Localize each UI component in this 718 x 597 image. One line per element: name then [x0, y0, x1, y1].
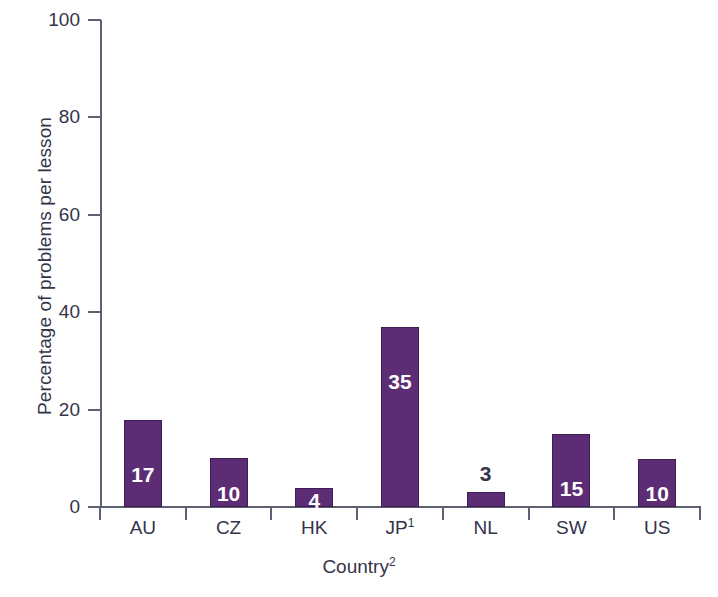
bar[interactable]: 10 [638, 459, 676, 507]
y-tick-label: 40 [20, 301, 80, 323]
x-tick-label: SW [556, 517, 587, 539]
y-axis-line [100, 20, 102, 508]
bar-value-label: 10 [639, 482, 675, 506]
x-tick-label: US [644, 517, 670, 539]
x-axis-title: Country2 [0, 556, 718, 578]
x-tick-label: JP1 [386, 517, 415, 539]
y-tick-mark [88, 116, 101, 118]
y-tick-mark [88, 214, 101, 216]
y-tick-label: 20 [20, 399, 80, 421]
y-axis-title: Percentage of problems per lesson [34, 16, 56, 516]
y-tick-label: 60 [20, 204, 80, 226]
x-tick-mark [270, 507, 272, 520]
y-tick-label: 100 [20, 9, 80, 31]
y-tick-label: 80 [20, 106, 80, 128]
bar-value-label: 15 [553, 477, 589, 501]
x-tick-mark [99, 507, 101, 520]
bar[interactable]: 35 [381, 327, 419, 507]
x-tick-mark [185, 507, 187, 520]
bar-chart: Percentage of problems per lesson 020406… [0, 0, 718, 597]
bar-value-label: 4 [296, 489, 332, 513]
bar-value-label: 35 [382, 370, 418, 394]
x-tick-label: CZ [216, 517, 241, 539]
bar[interactable]: 17 [124, 420, 162, 507]
bar-value-label: 3 [480, 462, 492, 486]
bar[interactable]: 10 [210, 458, 248, 507]
bar[interactable]: 4 [295, 488, 333, 507]
x-tick-mark [613, 507, 615, 520]
x-tick-label: NL [474, 517, 498, 539]
bar-value-label: 17 [125, 463, 161, 487]
bar[interactable] [467, 492, 505, 507]
y-tick-mark [88, 19, 101, 21]
x-tick-mark [699, 507, 701, 520]
y-tick-mark [88, 311, 101, 313]
x-tick-label: HK [301, 517, 327, 539]
bar[interactable]: 15 [552, 434, 590, 507]
y-tick-label: 0 [20, 496, 80, 518]
x-tick-mark [356, 507, 358, 520]
bar-value-label: 10 [211, 482, 247, 506]
x-tick-label: AU [130, 517, 156, 539]
y-tick-mark [88, 409, 101, 411]
x-tick-mark [528, 507, 530, 520]
x-tick-mark [442, 507, 444, 520]
